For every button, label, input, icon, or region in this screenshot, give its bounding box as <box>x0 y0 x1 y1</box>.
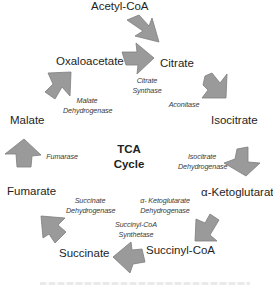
cycle-title-line2: Cycle <box>110 157 148 172</box>
metabolite-succinyl-coa: Succinyl-CoA <box>146 244 215 256</box>
enzyme-isocitrate-dehydrogenase: Isocitrate Dehydrogenase <box>178 152 226 173</box>
enzyme-line: Succinyl-CoA <box>112 220 160 230</box>
arrow-citrate-to-isocitrate-icon <box>202 73 227 98</box>
enzyme-succinate-dehydrogenase: Succinate Dehydrogenase <box>66 196 114 217</box>
cycle-title-line1: TCA <box>110 142 148 157</box>
enzyme-line: Dehydrogenase <box>63 106 111 116</box>
metabolite-isocitrate: Isocitrate <box>211 114 258 126</box>
enzyme-line: α- Ketoglutarate <box>138 196 192 206</box>
cycle-title: TCA Cycle <box>110 142 148 172</box>
enzyme-line: Synthetase <box>112 230 160 240</box>
enzyme-line: Aconitase <box>163 100 205 110</box>
enzyme-aconitase: Aconitase <box>163 100 205 110</box>
enzyme-line: Fumarase <box>44 152 80 162</box>
arrow-succinate-to-fumarate-icon <box>41 216 66 243</box>
enzyme-citrate-synthase: Citrate Synthase <box>127 76 167 97</box>
tca-cycle-diagram: Acetyl-CoA Citrate Isocitrate α-Ketoglut… <box>0 0 273 287</box>
enzyme-line: Synthase <box>127 86 167 96</box>
metabolite-malate: Malate <box>10 114 45 126</box>
arrow-akg-to-succinylcoa-icon <box>195 214 219 241</box>
enzyme-line: Isocitrate <box>178 152 226 162</box>
arrow-fumarate-to-malate-icon <box>5 139 41 167</box>
enzyme-line: Citrate <box>127 76 167 86</box>
metabolite-acetyl-coa: Acetyl-CoA <box>91 0 149 12</box>
arrow-succinylcoa-to-succinate-icon <box>113 242 145 273</box>
arrow-isocitrate-to-akg-icon <box>224 147 260 176</box>
enzyme-succinyl-coa-synthetase: Succinyl-CoA Synthetase <box>112 220 160 241</box>
metabolite-succinate: Succinate <box>59 247 110 259</box>
enzyme-alpha-ketoglutarate-dehydrogenase: α- Ketoglutarate Dehydrogenase <box>138 196 192 217</box>
metabolite-oxaloacetate: Oxaloacetate <box>56 55 124 67</box>
bleed-through-text-line <box>40 282 250 285</box>
enzyme-line: Succinate <box>66 196 114 206</box>
enzyme-malate-dehydrogenase: Malate Dehydrogenase <box>63 96 111 117</box>
metabolite-alpha-ketoglutarate: α-Ketoglutarate <box>201 186 273 198</box>
metabolite-fumarate: Fumarate <box>7 185 56 197</box>
enzyme-line: Dehydrogenase <box>66 206 114 216</box>
enzyme-line: Malate <box>63 96 111 106</box>
arrow-malate-to-oxaloacetate-icon <box>45 72 71 99</box>
arrow-acetylcoa-to-citrate-icon <box>127 15 159 42</box>
enzyme-fumarase: Fumarase <box>44 152 80 162</box>
enzyme-line: Dehydrogenase <box>178 162 226 172</box>
metabolite-citrate: Citrate <box>160 57 194 69</box>
enzyme-line: Dehydrogenase <box>138 206 192 216</box>
arrow-oxaloacetate-to-citrate-icon <box>122 43 154 74</box>
